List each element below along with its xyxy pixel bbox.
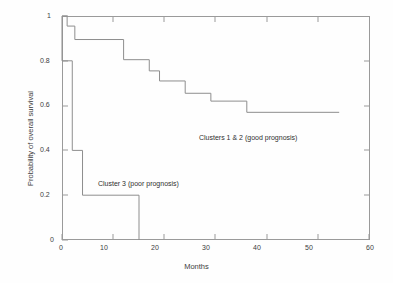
survival-curve-good-prognosis — [62, 16, 339, 112]
survival-curve-poor-prognosis — [62, 16, 139, 240]
annotation-poor-prognosis: Cluster 3 (poor prognosis) — [98, 180, 179, 187]
x-axis-ticks — [62, 16, 369, 240]
chart-canvas: Probability of overall survival 1 0.8 0.… — [0, 0, 393, 283]
annotation-good-prognosis: Clusters 1 & 2 (good prognosis) — [199, 134, 297, 141]
y-axis-ticks — [62, 16, 370, 240]
chart-plot-area — [0, 0, 393, 283]
